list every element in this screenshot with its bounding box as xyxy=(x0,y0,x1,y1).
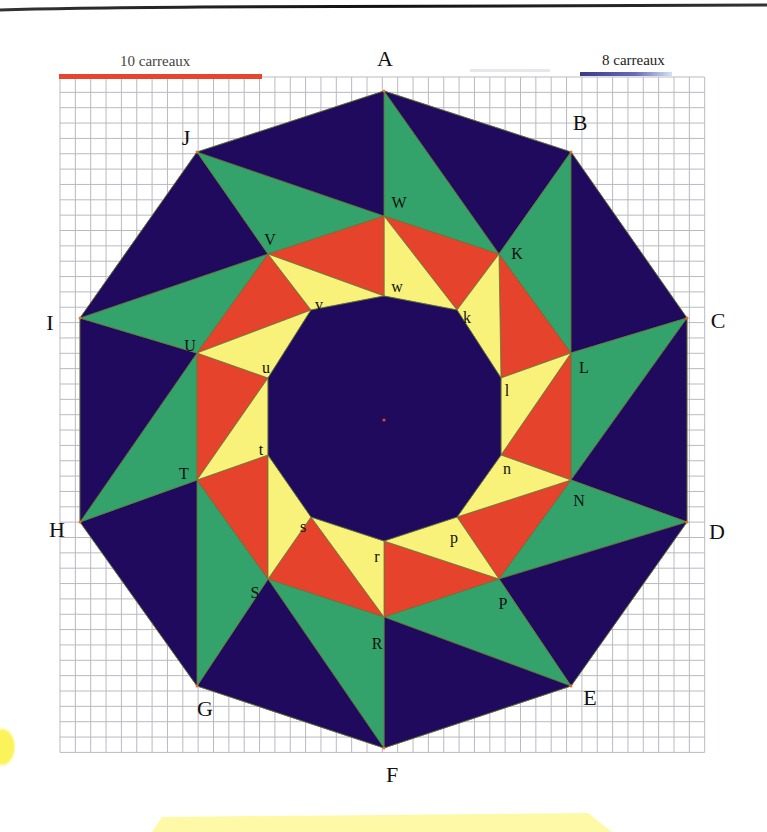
scale-bar-faded xyxy=(470,69,550,72)
vertex-point xyxy=(79,521,82,524)
scale-label-red: 10 carreaux xyxy=(120,53,190,70)
decagon-figure xyxy=(0,0,767,832)
yellow-highlight-blob xyxy=(0,727,16,767)
vertex-label-J: J xyxy=(182,127,191,149)
vertex-point xyxy=(570,151,573,154)
vertex-label-N: N xyxy=(573,493,585,509)
vertex-label-U: U xyxy=(184,338,196,354)
vertex-label-B: B xyxy=(573,112,588,134)
vertex-label-D: D xyxy=(709,521,725,543)
vertex-point xyxy=(570,685,573,688)
vertex-point xyxy=(196,151,199,154)
vertex-label-p: p xyxy=(450,530,458,546)
vertex-label-v: v xyxy=(315,297,323,313)
vertex-label-V: V xyxy=(264,232,276,248)
vertex-label-I: I xyxy=(46,312,53,334)
scale-label-blue: 8 carreaux xyxy=(602,52,665,69)
vertex-point xyxy=(196,685,199,688)
vertex-point xyxy=(79,317,82,320)
vertex-label-W: W xyxy=(391,195,406,211)
vertex-label-A: A xyxy=(377,48,393,70)
vertex-label-T: T xyxy=(179,466,189,482)
vertex-label-w: w xyxy=(391,279,403,295)
center-point xyxy=(382,418,385,421)
yellow-highlight-band xyxy=(152,813,612,832)
vertex-label-E: E xyxy=(583,687,596,709)
vertex-label-L: L xyxy=(579,360,589,376)
vertex-label-C: C xyxy=(711,310,726,332)
vertex-label-u: u xyxy=(262,360,270,376)
top-rule xyxy=(0,5,767,10)
vertex-label-F: F xyxy=(386,764,398,786)
vertex-label-t: t xyxy=(259,442,263,458)
vertex-label-K: K xyxy=(511,246,523,262)
vertex-label-s: s xyxy=(300,519,306,535)
scale-bar-blue xyxy=(580,72,672,76)
vertex-label-S: S xyxy=(251,585,260,601)
vertex-label-r: r xyxy=(374,549,379,565)
vertex-label-l: l xyxy=(505,383,509,399)
vertex-label-H: H xyxy=(49,519,65,541)
vertex-point xyxy=(383,747,386,750)
vertex-label-R: R xyxy=(372,636,383,652)
vertex-point xyxy=(686,317,689,320)
vertex-label-n: n xyxy=(503,461,511,477)
vertex-label-G: G xyxy=(197,698,213,720)
vertex-label-P: P xyxy=(499,596,508,612)
vertex-point xyxy=(686,521,689,524)
scale-bar-red xyxy=(59,74,262,79)
vertex-point xyxy=(383,90,386,93)
vertex-label-k: k xyxy=(463,310,471,326)
